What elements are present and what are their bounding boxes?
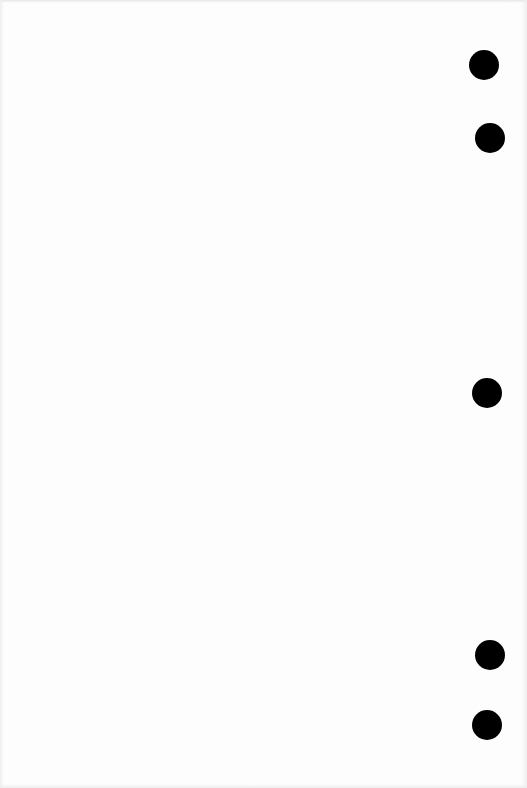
scan-edge-bottom: [0, 784, 527, 788]
scan-edge-top: [0, 0, 527, 3]
scan-edge-right: [521, 0, 527, 788]
punch-hole-4: [475, 640, 505, 670]
punch-hole-2: [475, 123, 505, 153]
scan-edge-left: [0, 0, 4, 788]
punch-hole-5: [472, 710, 502, 740]
punch-hole-3: [472, 378, 502, 408]
punch-hole-1: [469, 50, 499, 80]
blank-page: [0, 0, 527, 788]
